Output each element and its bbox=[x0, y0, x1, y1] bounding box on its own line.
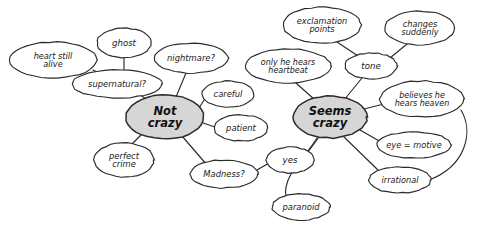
node-shape-careful bbox=[202, 81, 254, 108]
edge-seems-crazy--eye-motive bbox=[360, 130, 381, 142]
node-shape-supernatural bbox=[72, 70, 162, 99]
node-yes[interactable]: yes bbox=[266, 147, 315, 174]
edge-tone--changes-suddenly bbox=[390, 44, 407, 58]
node-shape-seems-crazy bbox=[293, 96, 368, 139]
node-shape-irrational bbox=[369, 167, 432, 193]
node-believes-he-hears-heaven[interactable]: believes hehears heaven bbox=[379, 81, 464, 117]
node-shape-tone bbox=[345, 53, 397, 79]
node-only-he-hears-heartbeat[interactable]: only he hearsheartbeat bbox=[245, 49, 331, 83]
node-nightmare[interactable]: nightmare? bbox=[154, 43, 228, 73]
nodes-layer: heart stillaliveghostsupernatural?nightm… bbox=[9, 7, 464, 221]
node-changes-suddenly[interactable]: changessuddenly bbox=[385, 11, 455, 45]
node-shape-madness bbox=[190, 160, 259, 188]
edge-not-crazy--perfect-crime bbox=[132, 134, 142, 144]
node-paranoid[interactable]: paranoid bbox=[272, 194, 330, 221]
node-ghost[interactable]: ghost bbox=[97, 28, 151, 58]
edge-only-he-hears-heartbeat--seems-crazy bbox=[296, 83, 315, 100]
node-shape-only-he-hears-heartbeat bbox=[245, 49, 331, 83]
node-shape-exclamation-points bbox=[283, 7, 361, 43]
node-madness[interactable]: Madness? bbox=[190, 160, 259, 188]
node-shape-paranoid bbox=[272, 194, 330, 221]
edge-yes--seems-crazy bbox=[308, 137, 319, 152]
edge-seems-crazy--believes-he-hears-heaven bbox=[364, 104, 384, 109]
node-supernatural[interactable]: supernatural? bbox=[72, 70, 162, 99]
node-careful[interactable]: careful bbox=[202, 81, 254, 108]
concept-map-canvas: heart stillaliveghostsupernatural?nightm… bbox=[0, 0, 486, 232]
edge-nightmare--not-crazy bbox=[176, 73, 186, 97]
node-eye-motive[interactable]: eye = motive bbox=[377, 132, 451, 158]
node-shape-yes bbox=[266, 147, 315, 174]
node-tone[interactable]: tone bbox=[345, 53, 397, 79]
edge-not-crazy--patient bbox=[203, 123, 215, 127]
node-shape-changes-suddenly bbox=[385, 11, 455, 45]
node-shape-patient bbox=[214, 115, 267, 141]
node-seems-crazy[interactable]: Seemscrazy bbox=[293, 96, 368, 139]
node-perfect-crime[interactable]: perfectcrime bbox=[94, 143, 155, 178]
edge-not-crazy--madness bbox=[182, 136, 207, 165]
node-shape-believes-he-hears-heaven bbox=[379, 81, 464, 117]
edge-seems-crazy--irrational bbox=[344, 137, 378, 170]
node-shape-perfect-crime bbox=[94, 143, 155, 178]
node-patient[interactable]: patient bbox=[214, 115, 267, 141]
node-shape-heart-still-alive bbox=[9, 42, 97, 79]
node-shape-eye-motive bbox=[377, 132, 451, 158]
edge-tone--seems-crazy bbox=[344, 78, 362, 100]
node-not-crazy[interactable]: Notcrazy bbox=[126, 95, 203, 139]
edge-tone--exclamation-points bbox=[337, 42, 358, 56]
node-shape-not-crazy bbox=[126, 95, 203, 139]
node-exclamation-points[interactable]: exclamationpoints bbox=[283, 7, 361, 43]
node-heart-still-alive[interactable]: heart stillalive bbox=[9, 42, 97, 79]
concept-map-diagram: heart stillaliveghostsupernatural?nightm… bbox=[0, 0, 486, 232]
node-shape-ghost bbox=[97, 28, 151, 58]
node-irrational[interactable]: irrational bbox=[369, 167, 432, 193]
node-shape-nightmare bbox=[154, 43, 228, 73]
